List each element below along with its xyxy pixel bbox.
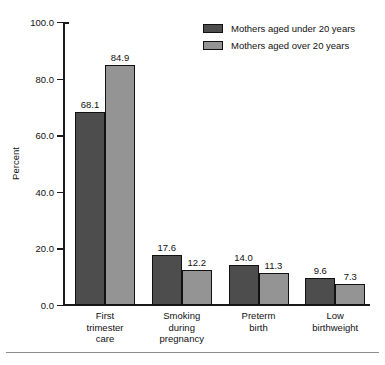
legend-swatch-series-1 (203, 24, 223, 33)
y-tick-label: 20.0 (36, 243, 55, 254)
bar-value-label: 12.2 (188, 257, 207, 268)
y-tick-mark (57, 192, 63, 193)
y-tick-label: 100.0 (30, 17, 54, 28)
bar-over20-1: 12.2 (182, 270, 212, 305)
bar-over20-3: 7.3 (335, 284, 365, 305)
bar-under20-2: 14.0 (229, 265, 259, 305)
bar-under20-3: 9.6 (305, 278, 335, 305)
bar-value-label: 68.1 (81, 99, 100, 110)
category-label-line: Low (290, 310, 380, 322)
y-tick-label: 40.0 (36, 186, 55, 197)
y-axis-title-label: Percent (10, 147, 21, 180)
chart-legend: Mothers aged under 20 years Mothers aged… (203, 21, 355, 55)
bar-value-label: 7.3 (344, 271, 357, 282)
y-tick-mark (57, 248, 63, 249)
legend-item-series-1: Mothers aged under 20 years (203, 21, 355, 35)
category-label-line: pregnancy (137, 333, 227, 345)
legend-label-series-1: Mothers aged under 20 years (231, 23, 355, 34)
bar-over20-2: 11.3 (259, 273, 289, 305)
bar-under20-0: 68.1 (75, 112, 105, 305)
legend-label-series-2: Mothers aged over 20 years (231, 40, 349, 51)
legend-swatch-series-2 (203, 41, 223, 50)
legend-item-series-2: Mothers aged over 20 years (203, 38, 355, 52)
y-tick-mark (57, 135, 63, 136)
y-tick-label: 0.0 (41, 300, 54, 311)
y-tick-mark (57, 79, 63, 80)
plot-area: 0.020.040.060.080.0100.0 68.184.917.612.… (63, 22, 370, 305)
bar-value-label: 9.6 (314, 265, 327, 276)
bar-value-label: 84.9 (111, 52, 130, 63)
bar-over20-0: 84.9 (105, 65, 135, 305)
y-tick-label: 80.0 (36, 73, 55, 84)
bar-under20-1: 17.6 (152, 255, 182, 305)
y-tick-label: 60.0 (36, 130, 55, 141)
y-axis-title: Percent (8, 22, 22, 305)
bar-value-label: 17.6 (158, 242, 177, 253)
y-tick-mark (57, 22, 63, 23)
category-label-3: Lowbirthweight (290, 310, 380, 333)
y-tick-mark (57, 305, 63, 306)
category-label-line: birthweight (290, 322, 380, 334)
bar-chart-figure: Percent 0.020.040.060.080.0100.0 68.184.… (0, 0, 385, 365)
bar-value-label: 11.3 (265, 260, 283, 271)
bar-value-label: 14.0 (234, 252, 253, 263)
bottom-divider-rule (6, 352, 379, 353)
